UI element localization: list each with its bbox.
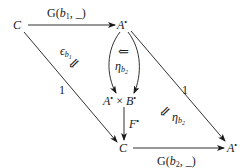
node-c-bottom: C xyxy=(119,142,127,154)
node-a-top-bullet: • xyxy=(124,18,127,27)
node-c-top-label: C xyxy=(13,18,21,32)
node-c-bottom-label: C xyxy=(119,141,127,155)
label-g-open: G( xyxy=(157,154,170,168)
node-a-bottom-bullet: • xyxy=(234,141,237,150)
times-symbol: × xyxy=(116,94,123,108)
arrow-curve-right xyxy=(128,32,139,93)
arrow-f-star-label: F• xyxy=(129,118,139,130)
two-cell-eta-center: ηb2 xyxy=(115,60,128,72)
arrow-right-diagonal-label: 1 xyxy=(182,84,188,96)
double-arrow-epsilon: ⇙ xyxy=(68,58,80,70)
node-a-bottom: A• xyxy=(227,142,237,154)
node-a-top: A• xyxy=(117,19,127,31)
arrow-left-diagonal-label: 1 xyxy=(59,84,65,96)
label-close: , _) xyxy=(180,154,196,168)
label-close: , _) xyxy=(70,6,86,20)
arrow-bottom-label: G(b2, _) xyxy=(157,155,196,167)
double-arrow-eta-right: ⇙ xyxy=(159,106,171,118)
node-a-bullet: • xyxy=(110,94,113,103)
label-f-bullet: • xyxy=(136,117,139,126)
node-b-bullet: • xyxy=(133,94,136,103)
double-arrow-left-icon: ⇐ xyxy=(118,44,129,59)
node-a-times-b: A• × B• xyxy=(103,95,136,107)
label-identity: 1 xyxy=(182,83,188,97)
node-c-top: C xyxy=(13,19,21,31)
eta-sub-2: 2 xyxy=(182,120,185,126)
label-g-open: G( xyxy=(47,6,60,20)
double-arrow-icon: ⇙ xyxy=(68,56,80,71)
arrow-top-label: G(b1, _) xyxy=(47,7,86,19)
double-arrow-icon: ⇙ xyxy=(159,104,171,119)
eta-sub-2: 2 xyxy=(125,69,128,75)
two-cell-eta-right: ηb2 xyxy=(172,111,185,123)
double-arrow-eta-center: ⇐ xyxy=(118,46,129,58)
label-identity: 1 xyxy=(59,83,65,97)
